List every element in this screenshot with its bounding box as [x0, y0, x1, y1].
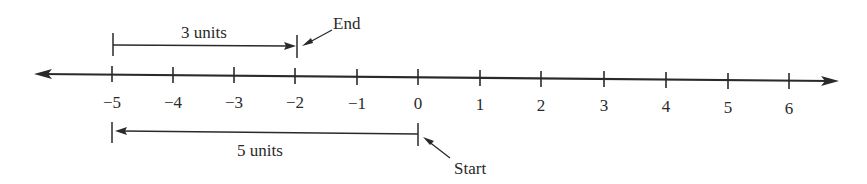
- tick-label: −4: [164, 93, 183, 112]
- start-annotation: Start: [423, 137, 486, 178]
- tick-labels: −5 −4 −3 −2 −1 0 1 2 3 4 5 6: [103, 93, 793, 118]
- upper-bracket-3-units: 3 units: [113, 23, 297, 58]
- tick-label: 2: [537, 96, 546, 115]
- tick-label: −1: [348, 94, 366, 113]
- axis-line: [40, 74, 830, 81]
- lower-bracket-5-units: 5 units: [112, 122, 418, 160]
- end-arrow-icon: [302, 38, 313, 46]
- bracket-label: 5 units: [237, 141, 283, 160]
- tick-label: 0: [414, 94, 423, 113]
- end-annotation: End: [302, 14, 361, 46]
- tick-label: −2: [286, 93, 304, 112]
- bracket-line: [113, 45, 290, 46]
- tick-label: 5: [724, 98, 733, 117]
- tick-label: 1: [476, 95, 485, 114]
- tick-label: 6: [785, 99, 794, 118]
- tick-label: 3: [600, 96, 609, 115]
- end-label: End: [333, 14, 361, 33]
- tick-label: −5: [103, 93, 121, 112]
- bracket-line: [122, 131, 418, 134]
- tick-label: 4: [662, 97, 671, 116]
- number-line-axis: [34, 69, 839, 86]
- tick-label: −3: [225, 93, 243, 112]
- start-label: Start: [454, 159, 486, 178]
- bracket-label: 3 units: [181, 23, 227, 42]
- number-line-diagram: −5 −4 −3 −2 −1 0 1 2 3 4 5 6 3 units End…: [0, 0, 867, 184]
